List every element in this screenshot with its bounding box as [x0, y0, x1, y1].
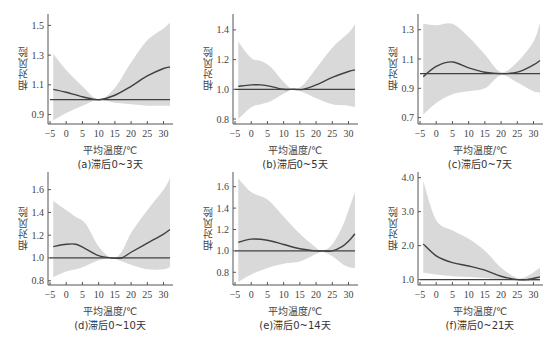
- x-tick-label: 20: [126, 289, 136, 300]
- x-axis-label: 平均温度/℃: [40, 142, 180, 157]
- x-tick-label: 0: [64, 289, 69, 300]
- x-axis-label: 平均温度/℃: [410, 142, 550, 157]
- confidence-band: [53, 22, 170, 120]
- x-tick-label: 30: [529, 128, 539, 139]
- x-tick-label: 10: [464, 128, 474, 139]
- y-axis-label: 相对风险: [201, 46, 216, 90]
- x-axis-label: 平均温度/℃: [410, 303, 550, 318]
- y-tick-label: 1.6: [217, 181, 230, 192]
- x-tick-label: 15: [110, 128, 120, 139]
- x-tick-label: −5: [230, 289, 241, 300]
- y-tick-label: 1.4: [217, 203, 230, 214]
- panel-caption: (f)滞后0~21天: [410, 317, 550, 332]
- x-tick-label: 30: [529, 289, 539, 300]
- y-axis-label: 相对风险: [386, 46, 401, 90]
- panel-caption: (a)滞后0~3天: [40, 156, 180, 171]
- x-tick-label: −5: [45, 128, 56, 139]
- y-tick-label: 1.2: [217, 224, 230, 235]
- y-tick-label: 1.1: [32, 79, 45, 90]
- y-tick-label: 1.2: [217, 54, 230, 65]
- y-tick-label: 1.0: [217, 84, 230, 95]
- x-tick-label: 10: [94, 289, 104, 300]
- x-axis-label: 平均温度/℃: [40, 303, 180, 318]
- x-tick-label: 5: [450, 289, 455, 300]
- y-tick-label: 0.8: [217, 267, 230, 278]
- x-tick-label: 0: [434, 128, 439, 139]
- x-tick-label: −5: [45, 289, 56, 300]
- x-tick-label: 15: [295, 289, 305, 300]
- x-tick-label: −5: [415, 128, 426, 139]
- y-tick-label: 0.9: [32, 109, 45, 120]
- x-tick-label: 5: [450, 128, 455, 139]
- confidence-band: [238, 178, 355, 282]
- x-tick-label: 10: [279, 128, 289, 139]
- confidence-band: [423, 22, 540, 114]
- x-axis-label: 平均温度/℃: [225, 142, 365, 157]
- x-tick-label: 0: [249, 128, 254, 139]
- y-tick-label: 3.0: [402, 206, 415, 217]
- chart-panel-a: −50510152025300.91.11.31.5相对风险平均温度/℃(a)滞…: [0, 0, 186, 170]
- x-tick-label: 15: [480, 128, 490, 139]
- panel-caption: (d)滞后0~10天: [40, 317, 180, 332]
- y-tick-label: 1.6: [32, 184, 45, 195]
- y-axis-label: 相对风险: [386, 206, 401, 250]
- x-axis-label: 平均温度/℃: [225, 303, 365, 318]
- x-tick-label: 30: [344, 289, 354, 300]
- y-tick-label: 1.2: [32, 230, 45, 241]
- x-tick-label: −5: [415, 289, 426, 300]
- chart-panel-b: −50510152025300.81.01.21.4相对风险平均温度/℃(b)滞…: [185, 0, 371, 170]
- chart-panel-e: −50510152025300.81.01.21.41.6相对风险平均温度/℃(…: [185, 170, 371, 339]
- y-axis-label: 相对风险: [16, 206, 31, 250]
- x-tick-label: 20: [311, 128, 321, 139]
- y-tick-label: 1.4: [217, 24, 230, 35]
- y-tick-label: 0.7: [402, 112, 415, 123]
- x-tick-label: 10: [279, 289, 289, 300]
- x-tick-label: 25: [142, 128, 152, 139]
- chart-panel-c: −50510152025300.70.91.11.3相对风险平均温度/℃(c)滞…: [370, 0, 556, 170]
- confidence-band: [238, 24, 355, 119]
- y-tick-label: 1.1: [402, 54, 415, 65]
- chart-panel-f: −50510152025301.02.03.04.0相对风险平均温度/℃(f)滞…: [370, 170, 556, 339]
- y-tick-label: 1.3: [402, 24, 415, 35]
- x-tick-label: 20: [126, 128, 136, 139]
- y-tick-label: 0.8: [217, 114, 230, 125]
- x-tick-label: 20: [496, 128, 506, 139]
- chart-panel-d: −50510152025300.81.01.21.41.6相对风险平均温度/℃(…: [0, 170, 186, 339]
- x-tick-label: 20: [496, 289, 506, 300]
- x-tick-label: 25: [142, 289, 152, 300]
- y-tick-label: 1.0: [217, 245, 230, 256]
- x-tick-label: 0: [434, 289, 439, 300]
- x-tick-label: 25: [327, 289, 337, 300]
- x-tick-label: 15: [480, 289, 490, 300]
- x-tick-label: 15: [110, 289, 120, 300]
- x-tick-label: 10: [94, 128, 104, 139]
- x-tick-label: 5: [80, 128, 85, 139]
- x-tick-label: −5: [230, 128, 241, 139]
- confidence-band: [423, 181, 540, 281]
- y-axis-label: 相对风险: [16, 46, 31, 90]
- y-tick-label: 0.9: [402, 83, 415, 94]
- x-tick-label: 30: [159, 128, 169, 139]
- x-tick-label: 20: [311, 289, 321, 300]
- y-tick-label: 1.0: [32, 252, 45, 263]
- x-tick-label: 5: [265, 289, 270, 300]
- y-axis-label: 相对风险: [201, 206, 216, 250]
- panel-caption: (b)滞后0~5天: [225, 156, 365, 171]
- x-tick-label: 10: [464, 289, 474, 300]
- x-tick-label: 25: [327, 128, 337, 139]
- panel-caption: (c)滞后0~7天: [410, 156, 550, 171]
- panel-caption: (e)滞后0~14天: [225, 317, 365, 332]
- x-tick-label: 25: [512, 128, 522, 139]
- x-tick-label: 30: [159, 289, 169, 300]
- x-tick-label: 5: [265, 128, 270, 139]
- y-tick-label: 0.8: [32, 275, 45, 286]
- confidence-band: [53, 178, 170, 277]
- x-tick-label: 15: [295, 128, 305, 139]
- x-tick-label: 0: [64, 128, 69, 139]
- y-tick-label: 1.5: [32, 20, 45, 31]
- x-tick-label: 30: [344, 128, 354, 139]
- y-tick-label: 1.0: [402, 274, 415, 285]
- x-tick-label: 25: [512, 289, 522, 300]
- x-tick-label: 0: [249, 289, 254, 300]
- y-tick-label: 1.3: [32, 50, 45, 61]
